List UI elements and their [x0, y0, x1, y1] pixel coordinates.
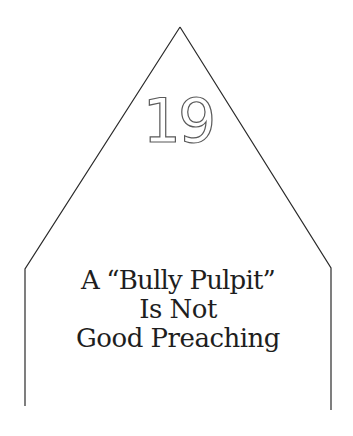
chapter-number: 19	[0, 88, 353, 154]
title-line-3: Good Preaching	[0, 324, 353, 353]
title-line-2: Is Not	[0, 295, 353, 324]
house-frame-outline	[0, 0, 353, 436]
title-line-1: A “Bully Pulpit”	[0, 266, 353, 295]
chapter-title: A “Bully Pulpit” Is Not Good Preaching	[0, 266, 353, 353]
